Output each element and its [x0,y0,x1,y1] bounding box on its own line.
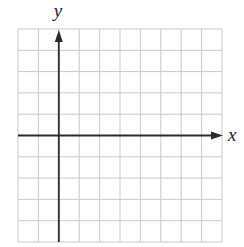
coordinate-plane: x y [0,0,244,247]
y-axis-arrowhead-icon [55,30,63,42]
x-axis-arrowhead-icon [211,132,223,140]
x-axis-label: x [227,124,237,145]
coordinate-grid-figure: x y [0,0,244,247]
y-axis-label: y [52,0,63,21]
